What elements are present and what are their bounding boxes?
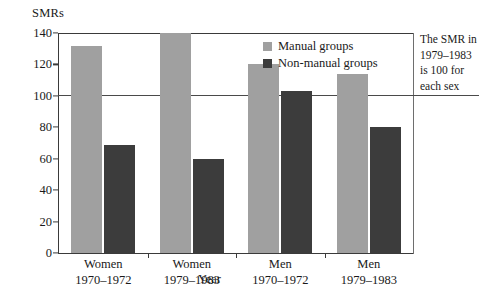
y-axis-title: SMRs xyxy=(32,6,64,21)
legend-item-manual: Manual groups xyxy=(263,38,378,55)
y-tick-mark xyxy=(53,190,58,191)
x-group-label-line1: Men xyxy=(319,256,419,272)
bar-non-manual xyxy=(104,145,135,253)
x-group-label-line1: Women xyxy=(142,256,242,272)
x-group-label: Men1970–1972 xyxy=(230,256,330,288)
y-tick-label: 40 xyxy=(0,184,52,197)
legend-swatch-non-manual-icon xyxy=(263,59,272,68)
y-tick-label: 120 xyxy=(0,58,52,71)
x-group-label-line2: 1979–1983 xyxy=(142,272,242,288)
chart-annotation: The SMR in 1979–1983 is 100 for each sex xyxy=(420,32,479,94)
y-tick-label: 80 xyxy=(0,121,52,134)
legend-swatch-manual-icon xyxy=(263,42,272,51)
plot-right-edge xyxy=(413,33,414,254)
bar-chart-figure: SMRs 020406080100120140 Women1970–1972Wo… xyxy=(0,0,479,288)
x-group-label: Women1979–1983 xyxy=(142,256,242,288)
bar-non-manual xyxy=(370,127,401,253)
x-group-label: Men1979–1983 xyxy=(319,256,419,288)
x-group-label-line2: 1970–1972 xyxy=(53,272,153,288)
y-tick-mark xyxy=(53,32,58,33)
chart-legend: Manual groups Non-manual groups xyxy=(263,38,378,72)
reference-line-100-extension xyxy=(413,95,479,96)
bar-non-manual xyxy=(193,159,224,253)
y-tick-mark xyxy=(53,95,58,96)
y-tick-mark xyxy=(53,64,58,65)
annotation-line-4: each sex xyxy=(420,79,479,95)
x-axis-title: Year xyxy=(198,272,221,287)
y-tick-mark xyxy=(53,127,58,128)
y-tick-mark xyxy=(53,221,58,222)
bar-manual xyxy=(160,33,191,253)
y-tick-label: 60 xyxy=(0,152,52,165)
y-tick-mark xyxy=(53,252,58,253)
x-group-label: Women1970–1972 xyxy=(53,256,153,288)
y-tick-label: 20 xyxy=(0,215,52,228)
annotation-line-1: The SMR in xyxy=(420,32,479,48)
annotation-line-2: 1979–1983 xyxy=(420,48,479,64)
y-tick-mark xyxy=(53,158,58,159)
bar-manual xyxy=(337,74,368,253)
x-group-label-line2: 1970–1972 xyxy=(230,272,330,288)
y-tick-label: 100 xyxy=(0,90,52,103)
annotation-line-3: is 100 for xyxy=(420,63,479,79)
y-tick-label: 140 xyxy=(0,27,52,40)
legend-label-non-manual: Non-manual groups xyxy=(278,55,378,72)
x-group-label-line2: 1979–1983 xyxy=(319,272,419,288)
bar-manual xyxy=(248,64,279,253)
x-group-label-line1: Women xyxy=(53,256,153,272)
bar-manual xyxy=(71,46,102,253)
y-tick-label: 0 xyxy=(0,247,52,260)
legend-item-non-manual: Non-manual groups xyxy=(263,55,378,72)
bar-non-manual xyxy=(281,91,312,253)
legend-label-manual: Manual groups xyxy=(278,38,353,55)
x-group-label-line1: Men xyxy=(230,256,330,272)
